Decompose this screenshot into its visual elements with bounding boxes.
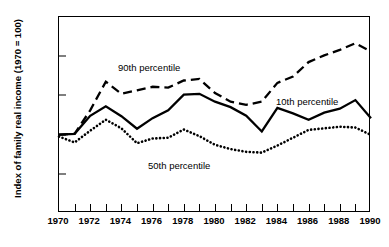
y-axis-title: Index of family real income (1970 = 100) xyxy=(12,9,23,209)
series-lines xyxy=(59,17,371,213)
series-label-10th-percentile: 10th percentile xyxy=(276,96,338,107)
plot-area xyxy=(58,16,370,212)
chart-figure: Index of family real income (1970 = 100)… xyxy=(0,0,389,247)
series-label-50th-percentile: 50th percentile xyxy=(148,160,210,171)
line-50th-percentile xyxy=(59,120,371,153)
x-tick-label: 1990 xyxy=(350,215,389,226)
series-label-90th-percentile: 90th percentile xyxy=(118,62,180,73)
source-note xyxy=(46,238,376,246)
